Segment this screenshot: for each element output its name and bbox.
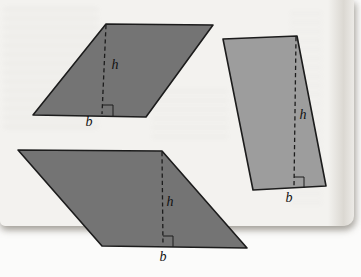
parallelogram-shape	[223, 36, 326, 190]
parallelogram-right: hb	[223, 36, 326, 205]
base-label: b	[160, 249, 167, 264]
scanned-page-backdrop: hbhbhb	[0, 0, 361, 277]
height-label: h	[300, 107, 307, 122]
parallelogram-shape	[18, 150, 247, 248]
parallelogram-top-left: hb	[33, 24, 213, 129]
parallelogram-shape	[33, 24, 213, 117]
parallelogram-bottom: hb	[18, 150, 247, 264]
height-label: h	[112, 57, 119, 72]
base-label: b	[286, 190, 293, 205]
base-label: b	[86, 114, 93, 129]
parallelograms-diagram: hbhbhb	[0, 0, 361, 277]
height-label: h	[167, 194, 174, 209]
